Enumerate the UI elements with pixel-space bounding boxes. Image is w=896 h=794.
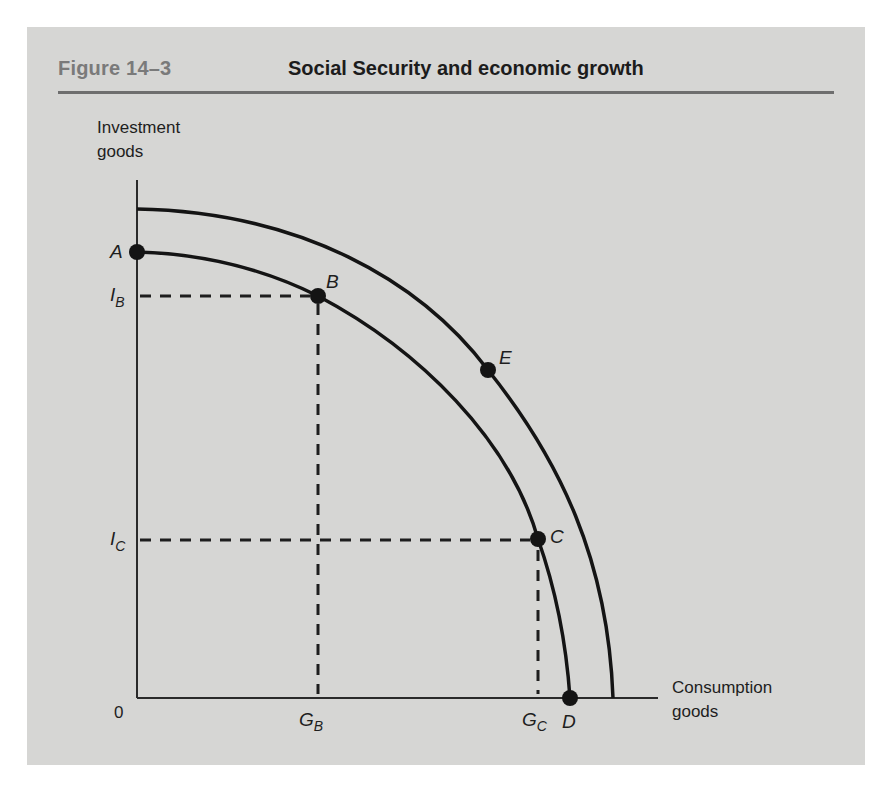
tick-gb-main: G [299, 709, 314, 730]
point-b-marker [310, 288, 326, 304]
tick-ic-sub: C [115, 538, 126, 554]
point-a-label: A [109, 241, 123, 262]
x-axis-title-line2: goods [672, 702, 718, 721]
point-c-label: C [550, 526, 564, 547]
point-c-marker [530, 531, 546, 547]
inner-ppf-curve [137, 252, 570, 698]
y-axis-title-line2: goods [97, 142, 143, 161]
tick-gb-label: GB [299, 709, 323, 734]
point-d-label: D [562, 711, 576, 732]
tick-gc-sub: C [537, 718, 548, 734]
point-e-marker [480, 362, 496, 378]
tick-gc-main: G [522, 709, 537, 730]
tick-ib-label: IB [110, 284, 125, 310]
tick-gb-sub: B [314, 718, 323, 734]
ppf-chart: A B C D E IB IC GB GC 0 Investment goods… [0, 0, 896, 794]
origin-label: 0 [114, 703, 123, 722]
tick-ic-label: IC [110, 528, 126, 554]
outer-ppf-curve [137, 209, 613, 698]
point-e-label: E [499, 347, 512, 368]
point-a-marker [129, 244, 145, 260]
x-axis-title-line1: Consumption [672, 678, 772, 697]
point-d-marker [562, 690, 578, 706]
point-b-label: B [326, 271, 339, 292]
y-axis-title-line1: Investment [97, 118, 180, 137]
tick-gc-label: GC [522, 709, 548, 734]
tick-ib-sub: B [115, 294, 124, 310]
